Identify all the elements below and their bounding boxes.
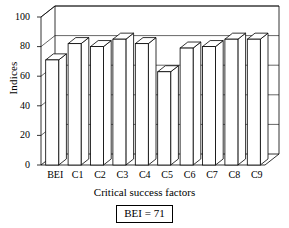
bar-c9 — [247, 33, 268, 165]
chart-figure: Indices 0 20 40 60 80 100 BEIC1C2C3C4C5C… — [0, 0, 289, 228]
bei-annotation-box: BEI = 71 — [116, 205, 172, 223]
bar-c4 — [135, 38, 156, 165]
bar-c1 — [68, 38, 89, 165]
bar-c5 — [158, 66, 179, 165]
x-axis-title: Critical success factors — [0, 186, 289, 198]
bar-c8 — [225, 33, 246, 165]
bar-c2 — [91, 41, 112, 165]
bar-series — [46, 33, 268, 165]
bar-c7 — [203, 41, 224, 165]
bar-c3 — [113, 33, 134, 165]
bar-c6 — [180, 42, 201, 165]
bar-bei — [46, 54, 67, 165]
annotation-container: BEI = 71 — [0, 203, 289, 223]
y-tick-marks — [37, 17, 41, 165]
x-tick-label-c9: C9 — [244, 169, 270, 180]
